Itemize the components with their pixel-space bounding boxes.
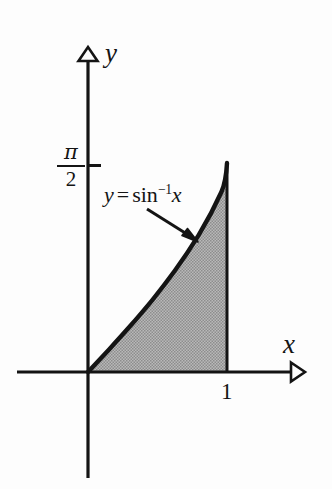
equation-argument: x bbox=[172, 182, 182, 207]
pointer-arrow-head-icon bbox=[182, 229, 198, 243]
equation-equals-sign: = bbox=[114, 182, 132, 207]
inverse-sine-area-figure: y x 1 π 2 y=sin−1x bbox=[0, 0, 332, 489]
equation-function-name: sin bbox=[132, 182, 158, 207]
y-axis-arrow-icon bbox=[79, 47, 98, 61]
pointer-arrow-shaft bbox=[147, 209, 190, 236]
plot-canvas bbox=[0, 0, 332, 489]
curve-equation-label: y=sin−1x bbox=[104, 183, 182, 206]
fraction-denominator: 2 bbox=[57, 168, 85, 190]
fraction-numerator: π bbox=[57, 141, 85, 163]
y-axis-label: y bbox=[105, 40, 117, 67]
x-axis-label: x bbox=[283, 331, 295, 358]
y-tick-label-pi-over-2: π 2 bbox=[57, 141, 85, 190]
x-axis-arrow-icon bbox=[291, 363, 305, 382]
equation-exponent: −1 bbox=[158, 182, 172, 197]
equation-lhs: y bbox=[104, 182, 114, 207]
x-tick-label-1: 1 bbox=[221, 380, 233, 403]
